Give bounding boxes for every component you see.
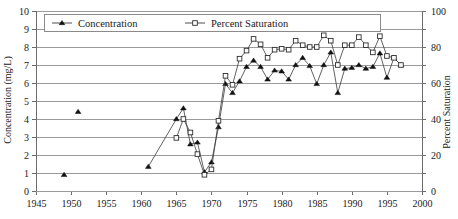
data-point-marker (300, 55, 306, 59)
data-point-marker (335, 63, 340, 68)
data-point-marker (237, 56, 242, 61)
y-axis-left-tick-label: 7 (24, 60, 29, 71)
y-axis-left-tick-label: 1 (24, 168, 29, 179)
data-point-marker (356, 62, 362, 66)
data-point-marker (350, 43, 355, 48)
data-point-marker (272, 47, 277, 52)
y-axis-left-tick-label: 0 (24, 186, 29, 197)
data-point-marker (188, 130, 193, 135)
x-axis-tick-label: 2000 (413, 198, 433, 209)
y-axis-right-tick-label: 0 (431, 186, 436, 197)
data-point-marker (237, 79, 243, 83)
oxygen-trend-chart: 1945195019551960196519701975198019851990… (0, 0, 458, 219)
y-axis-left-tick-label: 8 (24, 42, 29, 53)
data-point-marker (321, 33, 326, 38)
data-point-marker (328, 38, 333, 43)
x-axis-tick-label: 1985 (308, 198, 328, 209)
data-point-marker (293, 38, 298, 43)
y-axis-right-tick-label: 40 (431, 114, 441, 125)
data-point-marker (202, 173, 207, 178)
data-point-marker (279, 47, 284, 52)
legend-item-label: Concentration (78, 18, 138, 29)
legend-item-label: Percent Saturation (211, 18, 289, 29)
x-axis-tick-label: 1975 (238, 198, 258, 209)
data-point-marker (195, 152, 200, 157)
data-point-marker (209, 167, 214, 172)
x-axis-tick-label: 1965 (167, 198, 187, 209)
data-point-marker (251, 58, 257, 62)
data-point-marker (244, 48, 249, 53)
y-axis-right-tick-label: 100 (431, 6, 446, 17)
data-point-marker (216, 119, 221, 124)
y-axis-left-tick-label: 5 (24, 96, 29, 107)
legend: ConcentrationPercent Saturation (45, 15, 381, 32)
data-point-marker (364, 43, 369, 48)
data-point-marker (181, 117, 186, 122)
y-axis-left-tick-label: 10 (19, 6, 29, 17)
data-point-marker (181, 106, 187, 110)
x-axis-tick-label: 1970 (202, 198, 222, 209)
x-axis-tick-label: 1950 (62, 198, 82, 209)
y-axis-left-tick-label: 6 (24, 78, 29, 89)
y-axis-left-title: Concentration (mg/L) (2, 56, 14, 143)
data-point-marker (385, 54, 390, 59)
y-axis-left-ticks-group (32, 12, 36, 192)
data-point-marker (265, 77, 271, 81)
data-point-marker (145, 164, 151, 168)
y-axis-right-tick-label: 20 (431, 150, 441, 161)
data-point-marker (174, 136, 179, 141)
x-axis-tick-label: 1960 (132, 198, 152, 209)
x-axis-tick-label: 1945 (27, 198, 47, 209)
legend-marker-square-icon (193, 21, 198, 26)
data-point-marker (370, 64, 376, 68)
gridlines-group (36, 12, 422, 174)
data-point-marker (75, 109, 81, 113)
data-point-marker (384, 75, 390, 79)
data-point-marker (335, 90, 341, 94)
data-point-marker (392, 56, 397, 61)
data-point-marker (223, 74, 228, 79)
data-point-marker (61, 172, 67, 176)
data-point-marker (377, 51, 383, 55)
y-axis-left-tick-labels: 012345678910 (19, 6, 29, 197)
data-point-marker (286, 47, 291, 52)
x-axis-tick-labels: 1945195019551960196519701975198019851990… (27, 198, 433, 209)
data-point-marker (378, 34, 383, 39)
data-point-marker (258, 42, 263, 47)
x-axis-tick-label: 1980 (273, 198, 293, 209)
y-axis-left-tick-label: 2 (24, 150, 29, 161)
data-point-marker (343, 43, 348, 48)
data-point-marker (251, 37, 256, 42)
data-point-marker (272, 68, 278, 72)
x-axis-tick-label: 1990 (343, 198, 363, 209)
data-point-marker (230, 83, 235, 88)
chart-canvas: 1945195019551960196519701975198019851990… (0, 0, 458, 219)
data-point-marker (216, 125, 222, 129)
data-point-marker (265, 56, 270, 61)
data-point-marker (357, 35, 362, 40)
data-point-marker (399, 63, 404, 68)
data-point-marker (195, 140, 201, 144)
series-line (176, 35, 401, 175)
data-point-marker (307, 45, 312, 50)
y-axis-right-tick-label: 80 (431, 42, 441, 53)
data-point-marker (371, 50, 376, 55)
data-point-marker (314, 45, 319, 50)
data-point-marker (321, 62, 327, 66)
data-point-marker (174, 116, 180, 120)
x-axis-tick-label: 1955 (97, 198, 117, 209)
data-point-marker (328, 50, 334, 54)
data-point-marker (300, 43, 305, 48)
y-axis-right-title: Percent Saturation (441, 75, 452, 149)
series-1 (61, 50, 404, 177)
y-axis-left-tick-label: 4 (24, 114, 29, 125)
y-axis-left-tick-label: 9 (24, 24, 29, 35)
data-point-marker (230, 90, 236, 94)
y-axis-left-tick-label: 3 (24, 132, 29, 143)
data-point-marker (209, 160, 215, 164)
x-axis-tick-label: 1995 (378, 198, 398, 209)
y-axis-right-tick-label: 60 (431, 78, 441, 89)
